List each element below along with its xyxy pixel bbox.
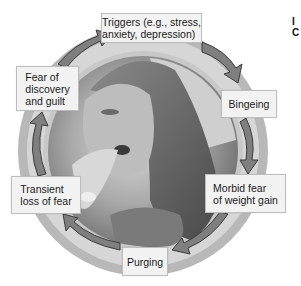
step-transient-loss-of-fear: Transient loss of fear (11, 176, 81, 214)
step-bingeing: Bingeing (221, 90, 277, 118)
step-triggers: Triggers (e.g., stress, anxiety, depress… (101, 13, 202, 43)
cut-off-caption: I C (292, 16, 299, 38)
bulimia-cycle-diagram: Triggers (e.g., stress, anxiety, depress… (0, 0, 301, 286)
step-morbid-fear-weight-gain: Morbid fear of weight gain (205, 174, 286, 213)
step-fear-of-discovery-and-guilt: Fear of discovery and guilt (16, 66, 79, 111)
step-purging: Purging (122, 247, 168, 276)
